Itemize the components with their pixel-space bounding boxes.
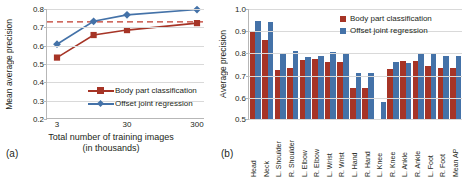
panel-b-legend: Body part classificationOffset joint reg… bbox=[340, 13, 432, 37]
panel-a-y-tick-mark bbox=[44, 9, 47, 10]
panel-b-bar bbox=[368, 73, 374, 120]
panel-b-category-label: L. Shoulder bbox=[273, 121, 286, 177]
panel-b-category-label: R. Hand bbox=[361, 121, 374, 177]
panel-b-gridline bbox=[249, 76, 462, 77]
panel-b-bar-group bbox=[299, 9, 312, 120]
panel-a-y-tick-label: 0.6 bbox=[33, 41, 44, 50]
panel-a-y-tick-label: 0.5 bbox=[33, 60, 44, 69]
panel-b-category-label-text: L. Knee bbox=[376, 121, 384, 177]
panel-b-category-label-text: L. Wrist bbox=[326, 121, 334, 177]
panel-a-legend: Body part classificationOffset joint reg… bbox=[88, 84, 197, 110]
panel-b-bar-chart: Average precision 0.50.60.70.80.91.0 Hea… bbox=[218, 0, 469, 179]
panel-b-category-label: L. Wrist bbox=[324, 121, 337, 177]
panel-a-y-axis-title: Mean average precision bbox=[4, 8, 14, 120]
panel-b-bar bbox=[280, 53, 286, 120]
panel-b-category-label-text: R. Elbow bbox=[313, 121, 321, 177]
panel-b-gridline bbox=[249, 53, 462, 54]
panel-a-legend-item: Body part classification bbox=[88, 84, 197, 97]
panel-b-bar bbox=[381, 102, 387, 120]
panel-a-x-axis-label-line2: (in thousands) bbox=[16, 143, 206, 154]
panel-a-data-point bbox=[123, 11, 131, 19]
panel-a-y-tick-mark bbox=[44, 101, 47, 102]
panel-b-category-label-text: L. Foot bbox=[427, 121, 435, 177]
panel-b-bar bbox=[431, 53, 437, 120]
panel-b-bar bbox=[255, 21, 261, 120]
panel-a-y-tick-mark bbox=[44, 46, 47, 47]
panel-b-category-label-text: Mean AP bbox=[452, 121, 460, 177]
panel-b-bar bbox=[268, 22, 274, 120]
panel-b-gridline bbox=[249, 119, 462, 120]
panel-a-data-point bbox=[91, 32, 97, 38]
panel-b-bar-group bbox=[324, 9, 337, 120]
panel-b-bar-group bbox=[249, 9, 262, 120]
panel-b-legend-swatch bbox=[340, 16, 346, 22]
panel-b-legend-label: Offset joint regression bbox=[350, 25, 428, 37]
panel-a-data-point bbox=[53, 40, 61, 48]
panel-b-category-label-text: Neck bbox=[263, 121, 271, 177]
panel-a-y-axis-label-text: Mean average precision bbox=[4, 19, 14, 110]
panel-a-y-tick-label: 0.4 bbox=[33, 78, 44, 87]
panel-b-category-label-text: L. Elbow bbox=[301, 121, 309, 177]
panel-a-x-axis-label-line1: Total number of training images bbox=[16, 132, 206, 143]
panel-b-y-axis-label-text: Average precision bbox=[218, 30, 228, 98]
panel-b-tag: (b) bbox=[221, 148, 233, 159]
panel-b-bar-group bbox=[274, 9, 287, 120]
panel-b-category-label: L. Foot bbox=[424, 121, 437, 177]
panel-b-bar bbox=[356, 73, 362, 120]
panel-a-legend-label: Body part classification bbox=[115, 84, 197, 97]
panel-b-bar-group bbox=[437, 9, 450, 120]
panel-b-y-tick-mark bbox=[246, 9, 249, 10]
panel-a-y-tick-label: 0.7 bbox=[33, 23, 44, 32]
panel-b-category-label-text: R. Knee bbox=[389, 121, 397, 177]
figure-root: Mean average precision 0.20.30.40.50.60.… bbox=[0, 0, 469, 179]
panel-b-y-tick-label: 1.0 bbox=[235, 5, 246, 14]
panel-b-bar bbox=[418, 53, 424, 120]
panel-b-bar-group bbox=[262, 9, 275, 120]
panel-b-bar bbox=[456, 56, 462, 120]
legend-square-marker-icon bbox=[97, 87, 104, 94]
panel-b-category-label: R. Foot bbox=[437, 121, 450, 177]
panel-b-legend-label: Body part classification bbox=[350, 13, 432, 25]
panel-b-bar-group bbox=[287, 9, 300, 120]
panel-b-category-labels: HeadNeckL. ShoulderR. ShoulderL. ElbowR.… bbox=[248, 121, 462, 177]
panel-a-line-chart: Mean average precision 0.20.30.40.50.60.… bbox=[0, 0, 218, 179]
panel-a-x-tick-label: 300 bbox=[190, 120, 203, 129]
panel-b-category-label: R. Wrist bbox=[336, 121, 349, 177]
panel-a-y-tick-mark bbox=[44, 119, 47, 120]
legend-diamond-marker-icon bbox=[97, 100, 104, 107]
panel-b-y-tick-label: 0.6 bbox=[235, 93, 246, 102]
panel-a-x-tick-label: 3 bbox=[55, 120, 59, 129]
panel-b-legend-item: Offset joint regression bbox=[340, 25, 432, 37]
panel-b-bar-group bbox=[450, 9, 463, 120]
panel-b-category-label: L. Hand bbox=[349, 121, 362, 177]
panel-b-category-label-text: R. Shoulder bbox=[288, 121, 296, 177]
panel-b-bar bbox=[406, 63, 412, 120]
panel-a-legend-swatch bbox=[88, 85, 114, 96]
panel-b-category-label: R. Shoulder bbox=[286, 121, 299, 177]
panel-a-data-point bbox=[90, 17, 98, 25]
panel-b-category-label-text: R. Hand bbox=[364, 121, 372, 177]
panel-b-y-tick-mark bbox=[246, 119, 249, 120]
panel-a-data-point bbox=[194, 20, 200, 26]
panel-b-category-label-text: R. Foot bbox=[439, 121, 447, 177]
panel-b-category-label-text: R. Ankle bbox=[414, 121, 422, 177]
panel-a-y-tick-mark bbox=[44, 82, 47, 83]
panel-b-bar bbox=[305, 57, 311, 120]
panel-b-category-label-text: L. Ankle bbox=[401, 121, 409, 177]
panel-b-category-label: Neck bbox=[261, 121, 274, 177]
panel-a-y-tick-label: 0.8 bbox=[33, 5, 44, 14]
panel-a-y-tick-mark bbox=[44, 64, 47, 65]
panel-b-y-tick-label: 0.9 bbox=[235, 27, 246, 36]
panel-b-y-tick-mark bbox=[246, 31, 249, 32]
panel-b-category-label-text: R. Wrist bbox=[338, 121, 346, 177]
panel-b-bar bbox=[393, 62, 399, 120]
panel-b-bar bbox=[293, 51, 299, 120]
panel-b-category-label: Head bbox=[248, 121, 261, 177]
panel-b-y-tick-label: 0.7 bbox=[235, 71, 246, 80]
panel-b-category-label: R. Knee bbox=[387, 121, 400, 177]
panel-b-legend-swatch bbox=[340, 28, 346, 34]
panel-b-y-tick-mark bbox=[246, 98, 249, 99]
panel-b-category-label: L. Knee bbox=[374, 121, 387, 177]
panel-b-y-tick-mark bbox=[246, 53, 249, 54]
panel-b-bar bbox=[330, 52, 336, 120]
